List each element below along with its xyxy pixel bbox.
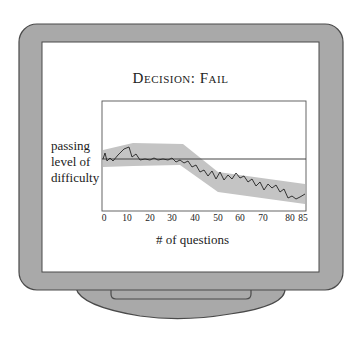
y-axis-label-line: level of <box>51 154 99 170</box>
x-tick-label: 40 <box>190 213 200 223</box>
x-tick-label: 10 <box>122 213 132 223</box>
x-tick-label: 30 <box>167 213 177 223</box>
y-axis-label: passing level of difficulty <box>51 138 99 186</box>
x-tick-label: 80 <box>285 213 295 223</box>
x-axis-label: # of questions <box>0 232 361 248</box>
x-tick-label: 85 <box>298 213 308 223</box>
x-tick-label: 20 <box>145 213 155 223</box>
chart-title: Decision: Fail <box>0 70 361 87</box>
x-tick-label: 50 <box>213 213 223 223</box>
y-axis-label-line: difficulty <box>51 170 99 186</box>
x-tick-label: 70 <box>258 213 268 223</box>
monitor-stand <box>76 288 285 319</box>
y-axis-label-line: passing <box>51 138 99 154</box>
x-tick-label: 60 <box>235 213 245 223</box>
x-tick-label: 0 <box>102 213 107 223</box>
